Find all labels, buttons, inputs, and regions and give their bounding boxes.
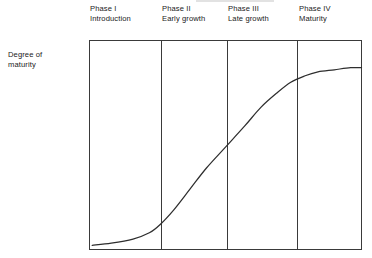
phase-header-4-line2: Maturity [299,14,331,24]
scan-artifact [196,0,274,2]
phase-header-1-line2: Introduction [90,14,131,24]
phase-header-2-line1: Phase II [162,4,205,14]
phase-header-1-line1: Phase I [90,4,131,14]
phase-divider-1 [161,40,162,250]
phase-header-3-line1: Phase III [228,4,269,14]
phase-header-4: Phase IV Maturity [299,4,331,24]
y-axis-label: Degree of maturity [8,50,86,70]
phase-header-3-line2: Late growth [228,14,269,24]
phase-divider-2 [227,40,228,250]
figure-container: Degree of maturity Phase I Introduction … [0,0,372,258]
phase-divider-3 [297,40,298,250]
phase-header-3: Phase III Late growth [228,4,269,24]
phase-header-2-line2: Early growth [162,14,205,24]
phase-header-4-line1: Phase IV [299,4,331,14]
plot-frame [89,40,362,250]
phase-header-2: Phase II Early growth [162,4,205,24]
phase-header-1: Phase I Introduction [90,4,131,24]
